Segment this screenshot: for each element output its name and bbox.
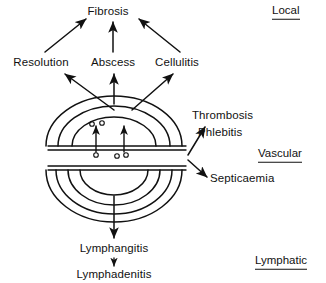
- section-label-vascular: Vascular: [258, 148, 302, 163]
- node-thrombosis: Thrombosis: [192, 110, 253, 122]
- node-abscess: Abscess: [91, 57, 135, 69]
- node-cellulitis: Cellulitis: [155, 57, 199, 69]
- section-label-local: Local: [272, 5, 300, 20]
- edge-vessel-to-septicaemia: [188, 160, 207, 177]
- node-phlebitis: Phlebitis: [198, 127, 242, 139]
- section-label-lymphatic: Lymphatic: [255, 255, 307, 270]
- node-resolution: Resolution: [13, 57, 68, 69]
- edge-focus-to-resolution: [65, 74, 114, 110]
- infection-spread-diagram: Fibrosis Resolution Abscess Cellulitis T…: [0, 0, 326, 283]
- blood-vessel-upper: [48, 146, 186, 150]
- node-lymphadenitis: Lymphadenitis: [76, 269, 151, 281]
- edge-cellulitis-to-fibrosis: [139, 19, 180, 52]
- node-septicaemia: Septicaemia: [210, 173, 274, 185]
- node-fibrosis: Fibrosis: [87, 6, 128, 18]
- node-lymphangitis: Lymphangitis: [80, 243, 149, 255]
- blood-vessel-lower: [48, 166, 186, 170]
- edge-resolution-to-fibrosis: [45, 19, 86, 52]
- diagram-canvas: [0, 0, 326, 283]
